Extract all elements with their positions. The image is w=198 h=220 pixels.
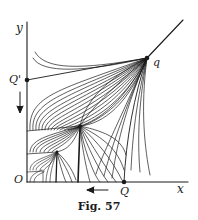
point-q-big (122, 180, 127, 185)
down-arrow-icon (17, 92, 23, 113)
ray-through-q (147, 20, 183, 58)
point-q-prime (25, 78, 30, 83)
q-prime-label: Q' (9, 74, 21, 85)
phase-portrait-diagram (0, 0, 198, 220)
x-axis-label: x (177, 183, 184, 195)
q-big-label: Q (120, 186, 129, 197)
trajectory-fan-smallest (27, 152, 57, 182)
middle-singular-point (78, 124, 82, 128)
left-arrow-icon (87, 187, 108, 193)
small-vertical-separatrix (56, 152, 57, 182)
point-q-small (145, 56, 150, 61)
figure-caption: Fig. 57 (0, 200, 198, 213)
q-small-label: q (153, 57, 160, 68)
origin-label: O (14, 174, 23, 185)
trajectory-fan-middle (80, 58, 147, 182)
small-singular-point (56, 151, 59, 154)
middle-vertical-separatrix (78, 126, 80, 182)
y-axis-label: y (16, 22, 23, 34)
